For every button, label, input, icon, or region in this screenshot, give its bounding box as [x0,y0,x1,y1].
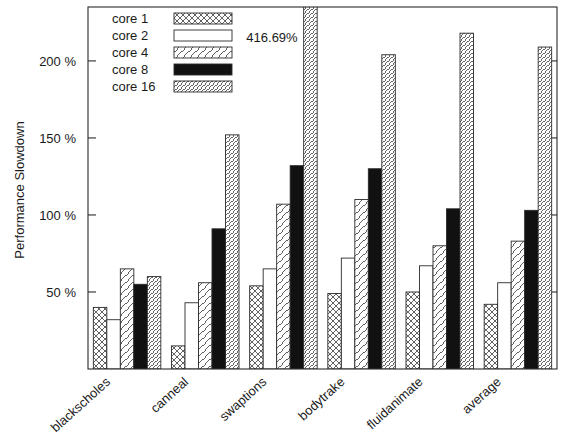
bar-canneal-core-4 [199,283,213,369]
bar-swaptions-core-8 [290,166,304,369]
legend-swatch-core-2 [174,30,232,41]
bar-blackscholes-core-16 [147,277,161,369]
legend-swatch-core-1 [174,13,232,24]
clipped-bar-value-annotation: 416.69% [246,30,298,45]
performance-slowdown-bar-chart: Performance Slowdown 50 %100 %150 %200 %… [0,0,581,441]
y-tick-label: 100 % [39,208,76,223]
bar-blackscholes-core-2 [107,320,121,369]
bar-average-core-1 [484,304,498,369]
legend-swatch-core-8 [174,64,232,75]
y-tick-label: 50 % [46,285,76,300]
bar-fluidanimate-core-4 [433,246,447,369]
bar-swaptions-core-16 [304,0,318,369]
bar-fluidanimate-core-2 [420,266,434,369]
legend-label-core-1: core 1 [112,11,148,26]
legend-label-core-2: core 2 [112,28,148,43]
y-axis-title-text: Performance Slowdown [12,121,27,258]
bar-blackscholes-core-4 [120,269,134,369]
y-axis-title: Performance Slowdown [12,121,27,258]
bar-blackscholes-core-1 [93,307,107,369]
bar-canneal-core-16 [226,135,240,369]
bar-average-core-16 [538,47,552,369]
bar-bodytrake-core-16 [382,55,396,369]
bar-bodytrake-core-8 [368,169,382,369]
bar-bodytrake-core-2 [341,258,355,369]
bar-average-core-2 [498,283,512,369]
bar-swaptions-core-4 [277,204,291,369]
chart-root: Performance Slowdown 50 %100 %150 %200 %… [0,0,581,441]
bar-fluidanimate-core-16 [460,33,474,369]
bar-blackscholes-core-8 [134,284,148,369]
legend-label-core-8: core 8 [112,62,148,77]
bar-canneal-core-2 [185,303,199,369]
bar-bodytrake-core-4 [355,200,369,369]
bar-average-core-8 [525,210,539,369]
bar-canneal-core-1 [172,346,186,369]
legend-swatch-core-4 [174,47,232,58]
y-tick-label: 200 % [39,54,76,69]
bar-swaptions-core-1 [250,286,263,369]
legend-label-core-4: core 4 [112,45,148,60]
y-tick-label: 150 % [39,131,76,146]
bar-canneal-core-8 [212,229,226,369]
legend-label-core-16: core 16 [112,79,155,94]
bar-fluidanimate-core-1 [406,292,420,369]
bar-average-core-4 [511,241,525,369]
bar-fluidanimate-core-8 [447,209,461,369]
legend-swatch-core-16 [174,81,232,92]
chart-annotations: 416.69% [246,30,298,45]
bar-swaptions-core-2 [263,269,277,369]
bar-bodytrake-core-1 [328,294,342,369]
